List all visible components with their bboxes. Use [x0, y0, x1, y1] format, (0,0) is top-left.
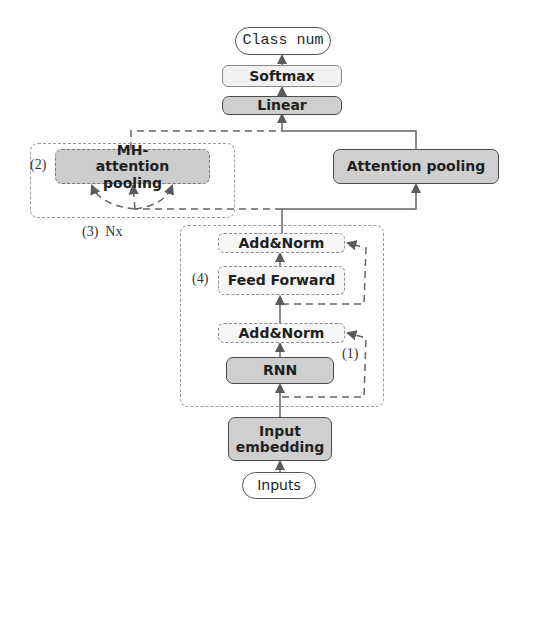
softmax-block: Softmax	[222, 65, 342, 87]
model-architecture-diagram: Class num Softmax Linear MH-attention po…	[0, 0, 534, 630]
rnn-block: RNN	[226, 357, 334, 384]
inputs-node: Inputs	[242, 472, 316, 499]
attention-pooling-block: Attention pooling	[333, 149, 499, 184]
class-num-output: Class num	[235, 27, 331, 55]
feed-forward-block: Feed Forward	[218, 266, 345, 295]
add-norm-top-block: Add&Norm	[218, 233, 345, 253]
residual-marker-label: (1)	[342, 346, 358, 362]
feed-forward-marker-label: (4)	[192, 271, 208, 287]
input-embedding-block: Input embedding	[228, 417, 332, 461]
repeat-nx-label: (3) Nx	[82, 224, 122, 240]
mh-marker-label: (2)	[30, 157, 46, 173]
linear-block: Linear	[222, 96, 342, 115]
add-norm-bottom-block: Add&Norm	[218, 323, 345, 343]
mh-attention-pooling-block: MH-attention pooling	[55, 149, 210, 184]
